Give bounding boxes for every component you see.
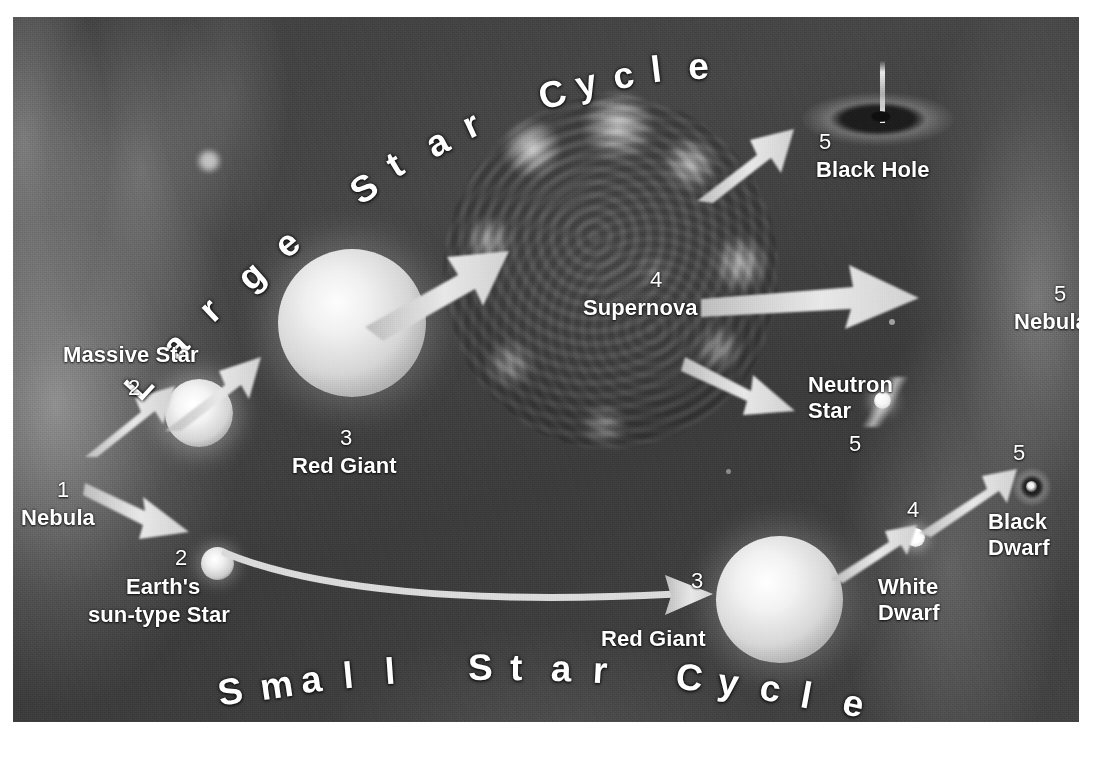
star-life-cycle-diagram: LargeStarCycleSmallStarCycle 1 Nebula Ma…: [0, 0, 1104, 759]
astronomy-photo-plate: LargeStarCycleSmallStarCycle 1 Nebula Ma…: [13, 17, 1079, 722]
film-grain-overlay-diagonal: [13, 17, 1079, 722]
